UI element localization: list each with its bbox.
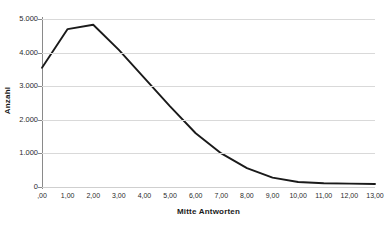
x-axis-tick-labels: ,001,002,003,004,005,006,007,008,009,001… (42, 192, 375, 204)
x-tick-label: ,00 (37, 192, 47, 199)
x-tick-label: 4,00 (138, 192, 152, 199)
gridline-y-4000 (42, 53, 375, 54)
y-tick-mark (38, 120, 42, 121)
y-tick-mark (38, 187, 42, 188)
x-tick-label: 13,00 (366, 192, 384, 199)
x-tick-label: 1,00 (61, 192, 75, 199)
chart-container: Anzahl 01.0002.0003.0004.0005.000 ,001,0… (0, 0, 390, 227)
y-tick-label: 5.000 (14, 15, 38, 23)
line-series-anzahl (42, 25, 375, 184)
gridline-y-5000 (42, 19, 375, 20)
gridline-y-2000 (42, 120, 375, 121)
x-tick-label: 10,00 (289, 192, 307, 199)
x-axis-title: Mitte Antworten (42, 207, 375, 216)
x-tick-label: 8,00 (240, 192, 254, 199)
y-tick-label: 2.000 (14, 116, 38, 124)
y-tick-label: 1.000 (14, 150, 38, 158)
x-tick-label: 9,00 (266, 192, 280, 199)
plot-area (42, 19, 375, 187)
x-tick-label: 2,00 (86, 192, 100, 199)
y-tick-mark (38, 53, 42, 54)
y-axis-tick-labels: 01.0002.0003.0004.0005.000 (14, 0, 38, 227)
gridline-y-3000 (42, 86, 375, 87)
gridline-y-0 (42, 187, 375, 188)
line-series-svg (42, 19, 375, 187)
gridline-y-1000 (42, 153, 375, 154)
x-tick-label: 12,00 (341, 192, 359, 199)
y-tick-label: 0 (14, 183, 38, 191)
x-tick-label: 5,00 (163, 192, 177, 199)
y-tick-label: 3.000 (14, 82, 38, 90)
x-tick-label: 11,00 (315, 192, 332, 199)
y-tick-mark (38, 86, 42, 87)
x-tick-label: 7,00 (214, 192, 228, 199)
y-tick-mark (38, 153, 42, 154)
x-tick-label: 6,00 (189, 192, 203, 199)
x-tick-label: 3,00 (112, 192, 126, 199)
y-axis-title-label: Anzahl (4, 86, 13, 113)
y-tick-label: 4.000 (14, 49, 38, 57)
y-tick-mark (38, 19, 42, 20)
